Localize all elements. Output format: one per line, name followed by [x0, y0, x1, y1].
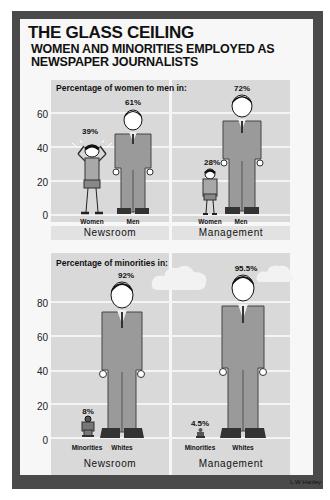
top-management-men-value: 72% — [222, 84, 262, 93]
man-tiny-icon — [196, 428, 205, 438]
bottom-group-label-management: Management — [172, 458, 290, 469]
bottom-ytick-20: 20 — [22, 401, 48, 412]
top-ytick-0: 0 — [22, 210, 48, 221]
woman-stressed-icon — [70, 140, 114, 216]
bottom-management-whites-label: Whites — [221, 444, 265, 451]
bottom-ytick-60: 60 — [22, 332, 48, 343]
man-in-suit-icon — [219, 93, 265, 216]
top-chart-label: Percentage of women to men in: — [56, 83, 187, 93]
man-in-suit-icon — [218, 273, 268, 438]
bottom-newsroom-whites-value: 92% — [106, 271, 146, 280]
top-ytick-60: 60 — [22, 109, 48, 120]
bottom-newsroom-whites-label: Whites — [100, 444, 144, 451]
bottom-group-label-newsroom: Newsroom — [51, 458, 169, 469]
bottom-management-whites-value: 95.5% — [226, 264, 266, 273]
top-management-men-label: Men — [219, 218, 263, 225]
page-subtitle: WOMEN AND MINORITIES EMPLOYED AS NEWSPAP… — [31, 43, 274, 69]
artist-credit: L.W Hanley — [290, 479, 321, 485]
man-in-suit-icon — [111, 108, 155, 216]
top-ytick-20: 20 — [22, 177, 48, 188]
bottom-ytick-0: 0 — [22, 435, 48, 446]
top-group-label-management: Management — [172, 227, 290, 238]
bottom-chart-label: Percentage of minorities in: — [56, 258, 168, 268]
top-newsroom-women-label: Women — [70, 218, 114, 225]
top-group-label-newsroom: Newsroom — [51, 227, 169, 238]
subtitle-line-2: NEWSPAPER JOURNALISTS — [31, 56, 274, 69]
top-newsroom-men-label: Men — [111, 218, 155, 225]
top-ytick-40: 40 — [22, 143, 48, 154]
top-newsroom-men-value: 61% — [113, 98, 153, 107]
man-in-suit-icon — [98, 280, 146, 438]
bottom-management-minorities-label: Minorities — [178, 444, 222, 451]
top-newsroom-women-value: 39% — [70, 127, 110, 136]
man-small-icon — [80, 416, 96, 438]
page-title: THE GLASS CEILING — [28, 23, 194, 43]
bottom-ytick-40: 40 — [22, 366, 48, 377]
bottom-management-minorities-value: 4.5% — [180, 419, 220, 428]
bottom-ytick-80: 80 — [22, 298, 48, 309]
